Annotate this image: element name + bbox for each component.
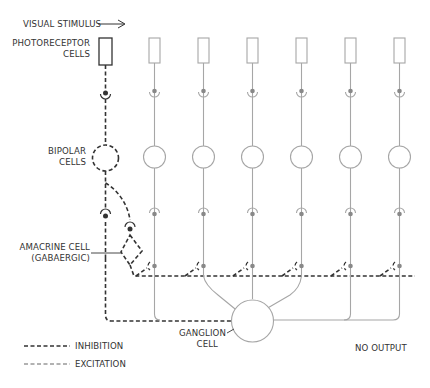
column-5 [266, 38, 313, 309]
column-2 [144, 38, 166, 320]
ganglion-label-1: GANGLION [179, 328, 226, 338]
stimulus-label: VISUAL STIMULUS [23, 19, 101, 29]
column-4 [242, 38, 264, 299]
legend: INHIBITION EXCITATION [24, 341, 126, 369]
no-output-label: NO OUTPUT [355, 343, 408, 353]
photoreceptor-label-2: CELLS [63, 49, 90, 59]
amacrine-cell [121, 235, 142, 265]
bipolar-cell-1 [93, 145, 119, 171]
column-6 [340, 38, 362, 320]
bipolar-label-1: BIPOLAR [48, 146, 86, 156]
photoreceptor-cell-1 [99, 38, 112, 65]
legend-inhibition-label: INHIBITION [75, 341, 123, 351]
ganglion-cell [232, 300, 274, 342]
legend-excitation-label: EXCITATION [75, 359, 126, 369]
synapse-dot-1a [103, 91, 108, 96]
bipolar-label-2: CELLS [59, 157, 86, 167]
retina-circuit-diagram: VISUAL STIMULUS PHOTORECEPTOR CELLS BIPO… [0, 0, 430, 388]
photoreceptor-label-1: PHOTORECEPTOR [12, 38, 90, 48]
amacrine-label-1: AMACRINE CELL [20, 242, 91, 252]
column-1-stimulated [93, 38, 259, 321]
amacrine-inhibition-line [130, 265, 415, 276]
column-3 [193, 38, 241, 313]
column-7 [389, 38, 411, 320]
amacrine-label-2: (GABAERGIC) [31, 253, 90, 263]
visual-stimulus-arrow: VISUAL STIMULUS [23, 19, 125, 29]
ganglion-label-2: CELL [197, 339, 219, 349]
